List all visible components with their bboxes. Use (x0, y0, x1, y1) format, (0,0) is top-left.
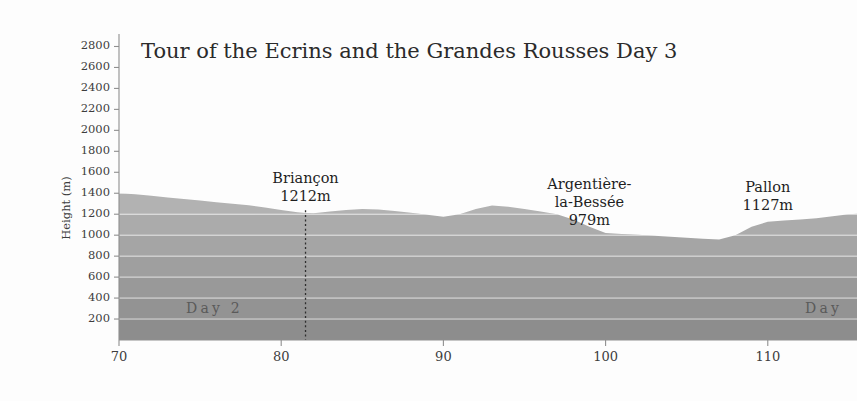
y-tick-label: 2400 (81, 80, 110, 94)
x-tick-label: 110 (755, 349, 780, 364)
terrain-band (119, 67, 857, 88)
place-label-line: 1212m (280, 188, 331, 204)
place-label-line: 1127m (742, 197, 793, 213)
day-label-left: Day 2 (186, 300, 243, 316)
y-tick-label: 2000 (81, 122, 110, 136)
chart-title: Tour of the Ecrins and the Grandes Rouss… (141, 39, 677, 63)
place-label-line: Pallon (745, 179, 790, 195)
x-tick-label: 100 (593, 349, 618, 364)
day-label-right: Day (805, 300, 842, 316)
place-label-line: Briançon (272, 170, 338, 186)
y-tick-label: 800 (88, 248, 110, 262)
terrain-band (119, 256, 857, 277)
y-tick-label: 1000 (81, 227, 110, 241)
y-tick-label: 2200 (81, 101, 110, 115)
y-tick-label: 400 (88, 290, 110, 304)
x-tick-label: 90 (435, 349, 452, 364)
y-tick-label: 1800 (81, 143, 110, 157)
terrain-band (119, 319, 857, 340)
chart-canvas: 2800260024002200200018001600140012001000… (0, 0, 857, 401)
terrain-band (119, 214, 857, 235)
y-tick-label: 1600 (81, 164, 110, 178)
y-tick-label: 2800 (81, 38, 110, 52)
x-tick-label: 80 (273, 349, 290, 364)
place-label-line: la-Bessée (555, 194, 624, 210)
terrain-band (119, 151, 857, 172)
elevation-profile-figure: 2800260024002200200018001600140012001000… (0, 0, 857, 401)
place-label-line: Argentière- (546, 176, 631, 192)
place-label-briancon: Briançon1212m (272, 170, 338, 204)
y-tick-label: 1400 (81, 185, 110, 199)
y-tick-label: 200 (88, 311, 110, 325)
y-tick-label: 600 (88, 269, 110, 283)
y-tick-label: 2600 (81, 59, 110, 73)
terrain-band (119, 277, 857, 298)
terrain-band (119, 88, 857, 109)
terrain-band (119, 130, 857, 151)
terrain-band (119, 109, 857, 130)
x-tick-label: 70 (111, 349, 128, 364)
y-tick-label: 1200 (81, 206, 110, 220)
terrain-band (119, 235, 857, 256)
y-axis-title: Height (m) (59, 176, 73, 239)
place-label-line: 979m (569, 212, 611, 228)
place-label-pallon: Pallon1127m (742, 179, 793, 213)
